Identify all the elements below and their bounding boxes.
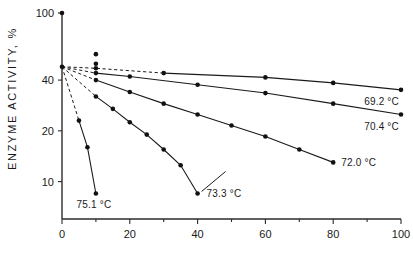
x-tick-label: 100 bbox=[392, 228, 410, 240]
x-tick-label: 40 bbox=[191, 228, 203, 240]
data-point-upper-cluster-point bbox=[94, 61, 99, 66]
data-point-origin-100-point bbox=[60, 11, 65, 16]
chart-canvas: 10040201002040608010069.2 °C70.4 °C72.0 … bbox=[0, 0, 413, 262]
data-point bbox=[331, 160, 336, 165]
data-point bbox=[128, 120, 133, 125]
data-point bbox=[263, 134, 268, 139]
data-point bbox=[297, 147, 302, 152]
y-tick-label: 20 bbox=[42, 125, 54, 137]
series-line-69.2 bbox=[164, 73, 401, 90]
chart-text-labels: 10040201002040608010069.2 °C70.4 °C72.0 … bbox=[36, 7, 411, 240]
data-point bbox=[263, 91, 268, 96]
data-point bbox=[94, 191, 99, 196]
y-tick-label: 10 bbox=[42, 176, 54, 188]
data-point bbox=[195, 112, 200, 117]
data-point bbox=[195, 191, 200, 196]
label-72: 72.0 °C bbox=[341, 157, 376, 168]
data-point bbox=[128, 90, 133, 95]
series-line-dashed-72 bbox=[62, 67, 96, 80]
data-point bbox=[331, 101, 336, 106]
data-point bbox=[161, 101, 166, 106]
x-tick-label: 20 bbox=[124, 228, 136, 240]
x-tick-label: 60 bbox=[259, 228, 271, 240]
data-point bbox=[85, 145, 90, 150]
data-point bbox=[399, 112, 404, 117]
data-point bbox=[94, 66, 99, 71]
data-point bbox=[94, 71, 99, 76]
data-point bbox=[128, 74, 133, 79]
data-point bbox=[178, 163, 183, 168]
data-point bbox=[161, 147, 166, 152]
label-70: 70.4 °C bbox=[364, 121, 399, 132]
label-69: 69.2 °C bbox=[364, 96, 399, 107]
series-line-73.3 bbox=[96, 96, 198, 193]
data-point-outlier-point bbox=[94, 52, 99, 57]
data-point bbox=[94, 94, 99, 99]
data-point bbox=[161, 71, 166, 76]
series-line-dashed-73.3 bbox=[62, 67, 96, 97]
data-point bbox=[195, 83, 200, 88]
data-point bbox=[94, 78, 99, 83]
data-point bbox=[144, 132, 149, 137]
label-75: 75.1 °C bbox=[76, 199, 111, 210]
data-point bbox=[111, 107, 116, 112]
label-73: 73.3 °C bbox=[207, 188, 242, 199]
x-tick-label: 0 bbox=[59, 228, 65, 240]
series-line-75.1 bbox=[79, 121, 96, 194]
y-axis-title: ENZYME ACTIVITY, % bbox=[6, 27, 18, 170]
chart-series bbox=[62, 67, 401, 194]
data-point-origin-cluster bbox=[60, 64, 65, 69]
series-line-dashed-70.4 bbox=[62, 67, 96, 73]
y-tick-label: 40 bbox=[42, 74, 54, 86]
x-tick-label: 80 bbox=[327, 228, 339, 240]
data-point bbox=[331, 81, 336, 86]
data-point bbox=[229, 123, 234, 128]
enzyme-activity-chart: 10040201002040608010069.2 °C70.4 °C72.0 … bbox=[0, 0, 413, 262]
series-line-70.4 bbox=[96, 73, 401, 114]
data-point bbox=[399, 88, 404, 93]
series-line-dashed-69.2 bbox=[62, 67, 164, 73]
y-tick-label: 100 bbox=[36, 7, 54, 19]
data-point bbox=[77, 118, 82, 123]
data-point bbox=[263, 75, 268, 80]
